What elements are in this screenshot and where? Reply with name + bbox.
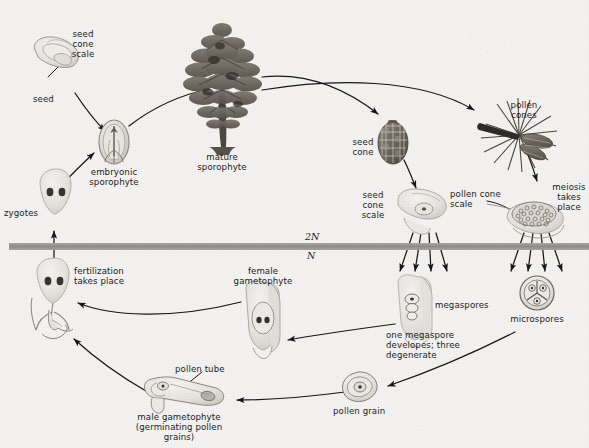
- label-male-gametophyte: male gametophyte (germinating pollen gra…: [124, 412, 234, 443]
- microspores-art: [520, 276, 554, 310]
- label-one-megaspore-develops: one megaspore developes; three degenerat…: [386, 330, 460, 361]
- seed-cone-art: [378, 120, 408, 164]
- label-meiosis-takes-place: meiosis takes place: [549, 182, 589, 213]
- seed-cone-scale-ovule-art: [398, 189, 446, 234]
- label-fertilization-takes-place: fertilization takes place: [74, 266, 124, 286]
- male-gametophyte-art: [144, 377, 223, 413]
- diagram-artwork: [0, 0, 589, 448]
- label-seed-cone: seed cone: [347, 137, 379, 157]
- arrow-meiosis-micro-3: [541, 233, 545, 271]
- label-microspores: microspores: [508, 314, 566, 324]
- mature-sporophyte-art: [183, 23, 262, 155]
- label-mature-sporophyte: mature sporophyte: [188, 152, 256, 172]
- zygotes-art: [40, 169, 71, 214]
- label-pollen-tube: pollen tube: [175, 364, 225, 374]
- label-embryonic-sporophyte: embryonic sporophyte: [78, 167, 150, 187]
- arrow-seed-to-embryo: [75, 93, 105, 131]
- female-gametophyte-art: [246, 281, 280, 359]
- pollen-grain-art: [342, 372, 377, 402]
- label-pollen-cones: pollen cones: [505, 100, 543, 120]
- embryonic-sporophyte-art: [99, 120, 129, 164]
- label-seed-cone-scale-top: seed cone scale: [56, 29, 110, 60]
- arrow-seed-cone-to-scale: [404, 160, 416, 188]
- ploidy-label-diploid: 2N: [305, 231, 319, 242]
- label-pollen-grain: pollen grain: [333, 406, 385, 416]
- arrow-meiosis-micro-1: [511, 233, 524, 271]
- fertilization-art: [31, 258, 73, 339]
- label-seed: seed: [33, 94, 54, 104]
- label-pollen-cone-scale: pollen cone scale: [450, 189, 501, 209]
- arrow-meiosis-mega-3: [429, 233, 431, 271]
- ploidy-label-haploid: N: [307, 250, 315, 261]
- conifer-life-cycle-diagram: 2N N seed cone scale seed embryonic spor…: [0, 0, 589, 448]
- ploidy-divider-bar: [9, 243, 589, 250]
- arrow-meiosis-micro-2: [528, 233, 533, 271]
- arrow-female-gametophyte-to-fertilization: [78, 302, 241, 314]
- arrow-male-gametophyte-to-fertilization: [74, 339, 146, 391]
- arrow-meiosis-micro-4: [549, 233, 562, 271]
- label-zygotes: zygotes: [4, 208, 38, 218]
- label-megaspores: megaspores: [435, 300, 489, 310]
- arrow-meiosis-mega-2: [415, 233, 421, 271]
- arrow-pollen-grain-to-male-gametophyte: [237, 392, 345, 400]
- scan-speckles: [95, 35, 505, 432]
- label-seed-cone-scale-mid: seed cone scale: [356, 190, 390, 221]
- arrow-meiosis-mega-4: [436, 233, 447, 271]
- label-female-gametophyte: female gametophyte: [227, 266, 299, 286]
- arrow-megaspore-to-female-gametophyte: [288, 324, 395, 340]
- arrow-meiosis-mega-1: [400, 233, 413, 271]
- arrow-tree-to-seed-cone: [262, 76, 378, 114]
